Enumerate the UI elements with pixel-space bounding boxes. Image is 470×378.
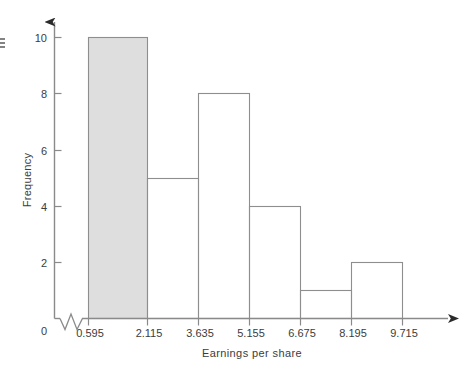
left-edge-artifact <box>0 38 5 49</box>
y-tick-label: 10 <box>35 32 47 44</box>
x-axis-title: Earnings per share <box>202 347 302 359</box>
histogram-bar <box>301 291 352 319</box>
y-tick-label: 8 <box>41 88 47 100</box>
x-tick-label: 8.195 <box>339 327 367 339</box>
y-tick-label: 4 <box>41 201 47 213</box>
x-tick-label: 2.115 <box>136 327 163 339</box>
histogram-chart: 10 8 6 4 2 0 0.595 2.115 <box>0 0 470 378</box>
x-tick-labels: 0.595 2.115 3.635 5.155 6.675 8.195 9.71… <box>76 327 418 339</box>
chart-canvas: 10 8 6 4 2 0 0.595 2.115 <box>0 0 470 378</box>
histogram-bar <box>352 263 403 319</box>
histogram-bar <box>148 179 199 319</box>
x-tick-label: 9.715 <box>390 327 418 339</box>
y-axis <box>55 22 62 319</box>
y-tick-label: 2 <box>41 257 47 269</box>
x-tick-label: 3.635 <box>186 327 214 339</box>
x-tick-label: 0.595 <box>76 327 104 339</box>
x-tick-label: 5.155 <box>237 327 265 339</box>
x-tick-label: 6.675 <box>288 327 316 339</box>
y-tick-label-zero: 0 <box>41 325 47 337</box>
y-tick-label: 6 <box>41 145 47 157</box>
histogram-bar <box>89 38 148 319</box>
histogram-bar <box>250 207 301 319</box>
bars-group <box>89 38 403 319</box>
histogram-bar <box>199 94 250 319</box>
y-tick-labels: 10 8 6 4 2 0 <box>35 32 47 338</box>
y-axis-title: Frequency <box>21 152 33 207</box>
